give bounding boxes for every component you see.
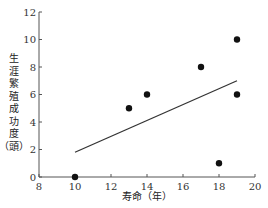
y-axis-label-char: 涯: [9, 65, 19, 77]
data-point: [234, 91, 240, 97]
y-tick-label: 6: [30, 89, 36, 100]
y-axis-label-char: 繁: [9, 77, 19, 89]
scatter-chart: 024681012 8101214161820 生涯繁殖成功度（頭） 寿命（年）: [0, 0, 268, 208]
x-tick-label: 18: [213, 181, 226, 192]
data-point: [72, 174, 78, 180]
x-axis-label: 寿命（年）: [122, 190, 172, 202]
data-point: [126, 105, 132, 111]
y-tick-label: 12: [23, 7, 36, 18]
y-axis-label-char: 功: [9, 116, 19, 127]
data-point: [234, 36, 240, 42]
x-tick-label: 12: [105, 181, 118, 192]
y-axis-label-char: 殖: [9, 90, 19, 102]
data-point: [198, 64, 204, 70]
y-axis-label-char: 成: [9, 103, 19, 114]
x-tick-label: 10: [69, 181, 82, 192]
y-tick-label: 4: [30, 117, 36, 128]
y-axis-label-char: （頭）: [0, 141, 29, 152]
x-tick-label: 16: [177, 181, 190, 192]
y-axis-label: 生涯繁殖成功度（頭）: [0, 52, 29, 152]
data-point: [216, 160, 222, 166]
trendline: [75, 81, 237, 153]
y-axis-label-char: 生: [9, 52, 19, 64]
y-axis-label-char: 度: [9, 127, 19, 139]
x-tick-label: 20: [249, 181, 262, 192]
data-points: [72, 36, 240, 180]
y-tick-label: 8: [30, 62, 36, 73]
y-tick-label: 10: [23, 34, 36, 45]
regression-line: [75, 81, 237, 153]
y-tick-label: 2: [30, 144, 36, 155]
x-tick-label: 8: [36, 181, 42, 192]
data-point: [144, 91, 150, 97]
